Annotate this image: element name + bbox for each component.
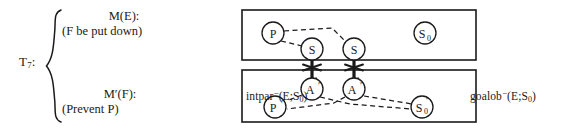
node-s-left-label: S bbox=[309, 43, 316, 57]
diagram-canvas: P S S S 0 A ′ A bbox=[230, 0, 564, 132]
node-a-right-label: A bbox=[348, 83, 357, 97]
goalob-label-args-close: ) bbox=[532, 90, 536, 102]
node-s0-prime-mark: ′ bbox=[426, 95, 428, 106]
node-p-label: P bbox=[270, 27, 277, 41]
node-s0-prime-subscript: 0 bbox=[424, 107, 428, 116]
trial-branch-bottom: M′(F): (Prevent P) bbox=[62, 87, 222, 117]
node-s-right-label: S bbox=[351, 43, 358, 57]
node-a-right-prime: ′ bbox=[360, 80, 362, 91]
intpar-label: intpar−(E;S0) bbox=[246, 88, 308, 104]
figure-root: T7: M(E): (F be put down) M′(F): (Preven… bbox=[0, 0, 564, 132]
node-a-left-prime: ′ bbox=[318, 80, 320, 91]
branch-top-body: (F be put down) bbox=[62, 24, 222, 39]
intpar-label-args-close: ) bbox=[304, 90, 308, 102]
node-s0: S 0 bbox=[414, 22, 436, 44]
node-p: P bbox=[262, 22, 284, 44]
situation-diagram: P S S S 0 A ′ A bbox=[230, 0, 564, 132]
node-s0-label: S bbox=[419, 27, 426, 41]
goalob-label: goalob−(E;S0) bbox=[470, 88, 536, 104]
goalob-label-name: goalob bbox=[470, 90, 502, 102]
intpar-label-args: (E;S bbox=[279, 90, 300, 102]
branch-bottom-head: M′(F): bbox=[62, 87, 222, 102]
trial-label: T7: bbox=[19, 54, 35, 70]
branch-bottom-body: (Prevent P) bbox=[62, 102, 222, 117]
node-s-right: S bbox=[343, 38, 365, 60]
trial-branch-top: M(E): (F be put down) bbox=[62, 9, 222, 39]
intpar-label-name: intpar bbox=[246, 90, 273, 102]
node-s0-prime: S 0 ′ bbox=[411, 95, 433, 118]
node-a-right: A ′ bbox=[343, 78, 365, 100]
trial-formula-block: T7: M(E): (F be put down) M′(F): (Preven… bbox=[0, 0, 230, 132]
trial-label-colon: : bbox=[32, 54, 36, 69]
node-s0-subscript: 0 bbox=[427, 34, 431, 43]
goalob-label-args: (E;S bbox=[507, 90, 528, 102]
node-s-left: S bbox=[301, 38, 323, 60]
branch-top-head: M(E): bbox=[62, 9, 222, 24]
trial-label-letter: T bbox=[19, 54, 27, 69]
node-s0-prime-label: S bbox=[416, 101, 423, 115]
